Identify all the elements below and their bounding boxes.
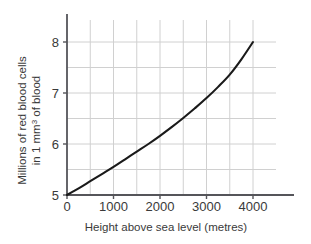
x-tick-label: 4000	[239, 199, 268, 214]
x-tick-label: 2000	[146, 199, 175, 214]
axes	[67, 14, 294, 195]
x-tick-labels: 01000200030004000	[63, 199, 267, 214]
x-tick-label: 3000	[192, 199, 221, 214]
x-axis-title-text: Height above sea level (metres)	[85, 221, 248, 233]
x-tick-label: 1000	[99, 199, 128, 214]
y-axis-title: Millions of red blood cellsin 1 mm3 of b…	[16, 56, 42, 185]
chart-figure: 01000200030004000 5678 Height above sea …	[0, 0, 311, 244]
y-tick-label: 6	[52, 137, 59, 152]
x-axis-title: Height above sea level (metres)	[85, 221, 248, 233]
y-axis-title-line: Millions of red blood cells	[16, 56, 28, 185]
y-tick-label: 7	[52, 86, 59, 101]
y-tick-label: 8	[52, 35, 59, 50]
y-axis-title-line: in 1 mm3 of blood	[30, 76, 43, 165]
y-tick-label: 5	[52, 188, 59, 203]
y-tick-labels: 5678	[52, 35, 59, 203]
x-tick-label: 0	[63, 199, 70, 214]
chart-canvas: 01000200030004000 5678 Height above sea …	[0, 0, 311, 244]
gridlines	[67, 20, 276, 195]
tick-marks	[63, 42, 253, 199]
